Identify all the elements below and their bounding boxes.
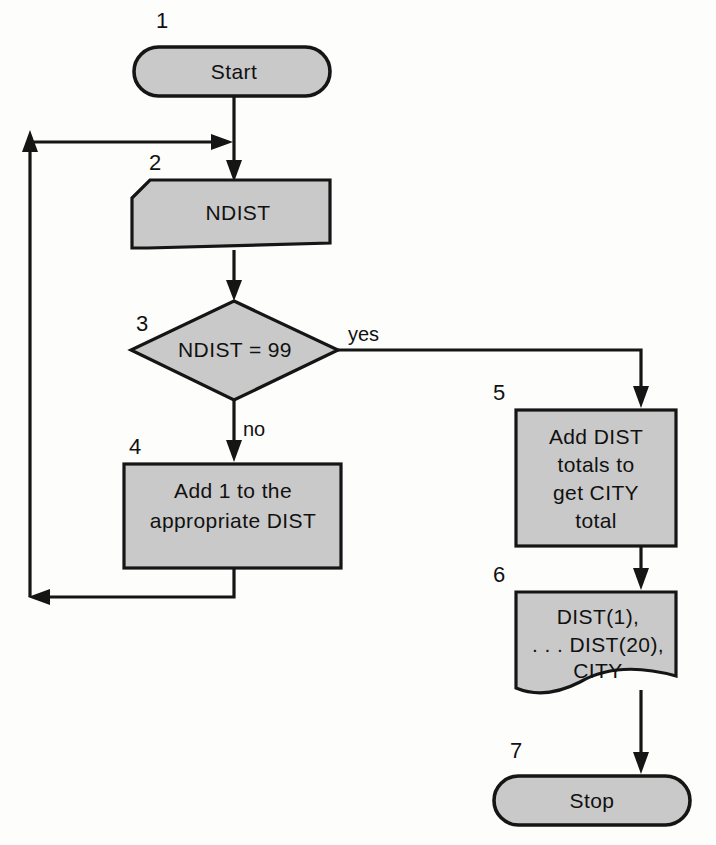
node-stop[interactable]: Stop xyxy=(494,776,690,825)
node-add-dist-line-1: Add DIST xyxy=(549,425,643,448)
node-add-dist-line-3: get CITY xyxy=(553,481,639,504)
edge-label-no: no xyxy=(243,418,265,440)
node-add-dist-line-2: totals to xyxy=(557,453,634,476)
step-number-6: 6 xyxy=(493,562,505,587)
step-number-3: 3 xyxy=(136,311,148,336)
step-number-2: 2 xyxy=(149,150,161,175)
step-number-5: 5 xyxy=(493,380,505,405)
node-output-line-1: DIST(1), xyxy=(557,605,640,628)
connector-start-to-ndist xyxy=(226,96,242,182)
connector-ndist-to-decision xyxy=(226,250,242,301)
node-add-one-line-1: Add 1 to the xyxy=(174,479,292,502)
connector-decision-no-to-add xyxy=(226,400,242,462)
node-output-line-3: CITY xyxy=(573,659,622,682)
node-decision-label: NDIST = 99 xyxy=(178,338,292,361)
node-add-dist-line-4: total xyxy=(575,509,617,532)
node-add-one-process[interactable]: Add 1 to the appropriate DIST xyxy=(124,464,341,568)
flowchart-svg: Start 1 NDIST 2 NDIST = 99 3 yes no Add … xyxy=(0,0,716,845)
node-stop-label: Stop xyxy=(570,789,615,812)
node-start-label: Start xyxy=(211,60,257,83)
flowchart-canvas: Start 1 NDIST 2 NDIST = 99 3 yes no Add … xyxy=(0,0,716,845)
connector-output-to-stop xyxy=(633,690,649,774)
node-ndist-label: NDIST xyxy=(206,201,271,224)
edge-label-yes: yes xyxy=(348,323,379,345)
connector-addtotals-to-output xyxy=(633,546,649,590)
step-number-4: 4 xyxy=(129,434,141,459)
step-number-7: 7 xyxy=(510,738,522,763)
node-add-dist-totals-process[interactable]: Add DIST totals to get CITY total xyxy=(516,410,676,546)
step-number-1: 1 xyxy=(156,8,168,33)
node-decision-ndist-eq-99[interactable]: NDIST = 99 xyxy=(131,301,338,400)
node-output-line-2: . . . DIST(20), xyxy=(532,633,664,656)
node-ndist-input[interactable]: NDIST xyxy=(132,180,330,248)
node-print-output-document[interactable]: DIST(1), . . . DIST(20), CITY xyxy=(516,592,676,693)
node-add-one-line-2: appropriate DIST xyxy=(150,509,316,532)
node-start[interactable]: Start xyxy=(134,47,330,96)
